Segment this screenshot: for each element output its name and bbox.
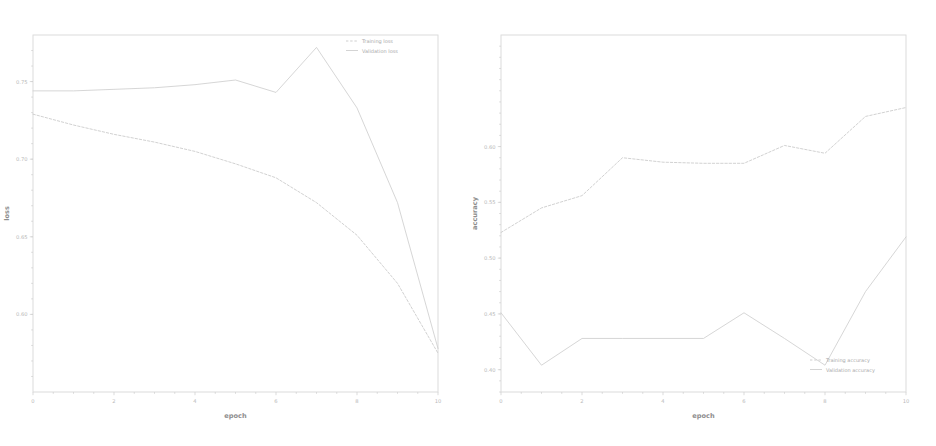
series-line-training	[33, 114, 438, 353]
x-tick-label: 10	[903, 398, 910, 404]
chart-legend: Training accuracyValidation accuracy	[810, 357, 875, 374]
legend-label-validation: Validation accuracy	[826, 367, 875, 374]
training-history-figure: 02468100.600.650.700.75epochlossTraining…	[0, 0, 936, 446]
x-tick-label: 6	[274, 398, 277, 404]
legend-label-training: Training loss	[361, 38, 393, 45]
x-tick-label: 6	[742, 398, 745, 404]
x-tick-label: 4	[193, 398, 197, 404]
accuracy-chart-panel: 02468100.400.450.500.550.60epochaccuracy…	[468, 0, 936, 446]
legend-label-training: Training accuracy	[825, 357, 870, 364]
x-tick-label: 8	[823, 398, 826, 404]
y-axis-title: loss	[3, 206, 11, 221]
series-line-validation	[501, 237, 906, 365]
y-tick-label: 0.60	[16, 311, 28, 317]
y-tick-label: 0.50	[484, 255, 496, 261]
y-tick-label: 0.70	[16, 156, 28, 162]
plot-box-spine	[33, 35, 438, 392]
y-tick-label: 0.45	[484, 311, 496, 317]
x-tick-label: 2	[112, 398, 115, 404]
series-line-validation	[33, 47, 438, 348]
x-axis-title: epoch	[692, 412, 715, 420]
accuracy-chart-svg: 02468100.400.450.500.550.60epochaccuracy…	[468, 0, 936, 446]
y-tick-label: 0.60	[484, 144, 496, 150]
loss-chart-svg: 02468100.600.650.700.75epochlossTraining…	[0, 0, 468, 446]
y-tick-label: 0.75	[16, 79, 28, 85]
x-tick-label: 4	[661, 398, 665, 404]
x-axis-title: epoch	[224, 412, 247, 420]
y-tick-label: 0.40	[484, 367, 496, 373]
x-tick-label: 2	[580, 398, 583, 404]
y-tick-label: 0.55	[484, 199, 496, 205]
x-tick-label: 0	[499, 398, 502, 404]
legend-label-validation: Validation loss	[362, 48, 398, 54]
y-axis-title: accuracy	[471, 196, 479, 230]
loss-chart-panel: 02468100.600.650.700.75epochlossTraining…	[0, 0, 468, 446]
x-tick-label: 8	[355, 398, 358, 404]
x-tick-label: 0	[31, 398, 34, 404]
series-line-training	[501, 108, 906, 233]
chart-legend: Training lossValidation loss	[346, 38, 398, 54]
y-tick-label: 0.65	[16, 234, 28, 240]
x-tick-label: 10	[435, 398, 442, 404]
